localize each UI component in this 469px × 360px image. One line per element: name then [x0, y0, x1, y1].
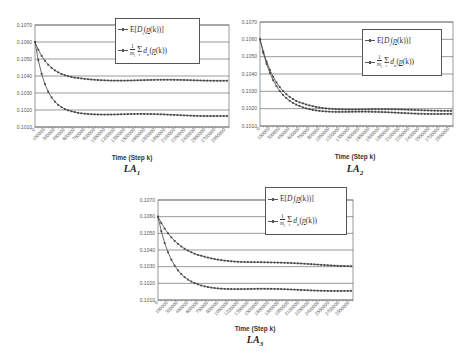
y-tick-label: 0.1020 — [140, 280, 156, 286]
legend-marker-icon — [268, 221, 278, 222]
y-tick-label: 0.1040 — [140, 247, 156, 253]
y-tick-label: 0.1030 — [140, 263, 156, 269]
legend-marker-icon — [268, 199, 278, 200]
y-tick-label: 0.1060 — [140, 213, 156, 219]
y-tick-label: 0.1050 — [140, 230, 156, 236]
chart-la3-plot: 0.10100.10200.10300.10400.10500.10600.10… — [0, 0, 469, 330]
chart-la3-caption: LA3 — [225, 334, 285, 348]
chart-la3-legend: E[Di(p(k))]1miΣrdir(p(k)) — [265, 187, 347, 235]
chart-la3-xlabel: Time (Step k) — [195, 325, 315, 332]
legend-item-expected-delay: E[Di(p(k))] — [268, 194, 314, 205]
y-tick-label: 0.1070 — [140, 197, 156, 203]
chart-la3: 0.10100.10200.10300.10400.10500.10600.10… — [0, 0, 469, 360]
legend-item-average-delay: 1miΣrdir(p(k)) — [268, 213, 317, 229]
